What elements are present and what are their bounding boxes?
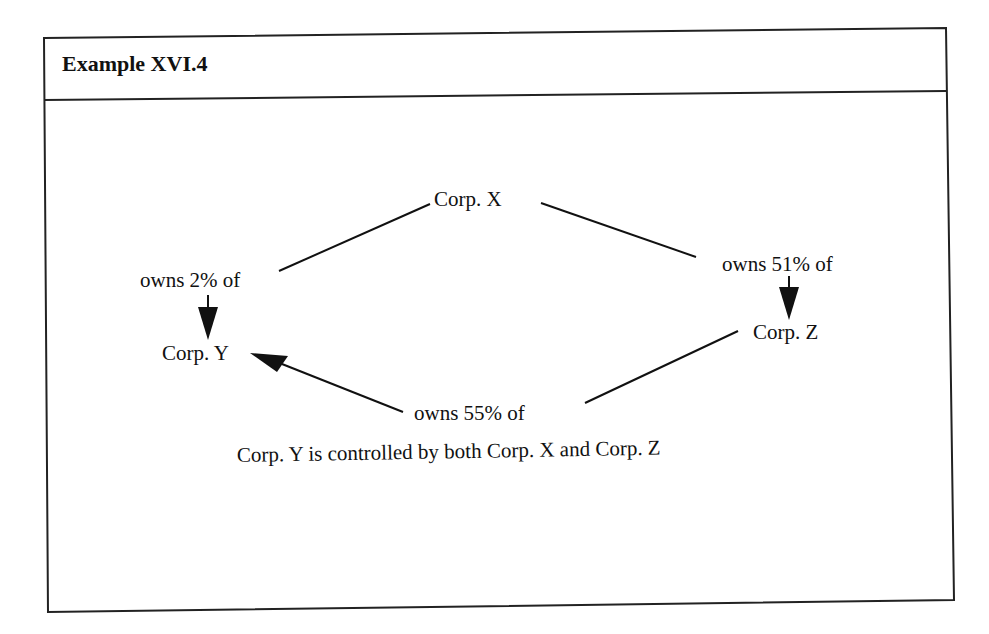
edge-label-z-y: owns 55% of — [414, 403, 525, 424]
arrow-left-icon — [250, 353, 288, 372]
edge-line-label-to-y — [282, 364, 403, 412]
edge-line-x-to-z — [541, 203, 696, 257]
node-corp-x: Corp. X — [434, 189, 502, 210]
edge-line-z-to-label — [585, 331, 738, 403]
edge-line-x-to-y — [279, 204, 430, 271]
edge-label-x-y: owns 2% of — [140, 270, 240, 291]
edge-label-x-z: owns 51% of — [722, 254, 833, 275]
example-box — [0, 0, 989, 634]
arrow-down-icon — [198, 307, 218, 340]
example-title: Example XVI.4 — [62, 51, 207, 77]
node-corp-y: Corp. Y — [162, 343, 229, 364]
header-divider — [44, 91, 946, 100]
node-corp-z: Corp. Z — [753, 322, 818, 343]
arrow-down-icon — [779, 287, 799, 320]
